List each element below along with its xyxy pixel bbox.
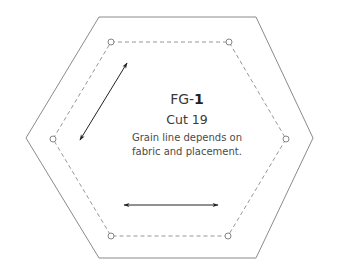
piece-code-number: 1 [194, 91, 204, 107]
corner-marker-icon [50, 136, 56, 142]
corner-marker-icon [108, 39, 114, 45]
grain-note-line-1: Grain line depends on [110, 131, 264, 145]
piece-code-prefix: FG- [170, 91, 194, 107]
corner-marker-icon [283, 136, 289, 142]
grain-note-line-2: fabric and placement. [110, 145, 264, 159]
corner-marker-icon [108, 233, 114, 239]
piece-code: FG-1 [110, 91, 264, 107]
corner-marker-icon [226, 39, 232, 45]
grain-note: Grain line depends on fabric and placeme… [110, 131, 264, 159]
corner-marker-icon [225, 233, 231, 239]
cut-count: Cut 19 [110, 112, 264, 127]
